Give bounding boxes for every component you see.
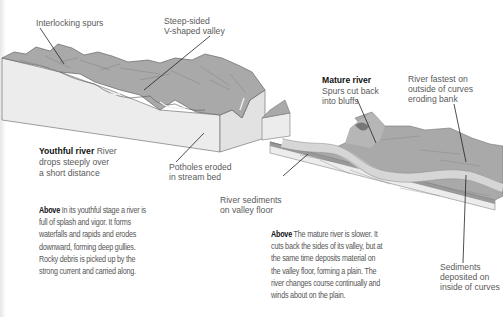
mature-caption-line: The mature river is slower. It xyxy=(294,230,378,239)
mature-caption-line: the same time deposits material on xyxy=(271,253,382,265)
label-deposited-line3: inside of curves xyxy=(440,282,500,292)
label-youthful-river: Youthful river River xyxy=(39,146,117,156)
label-deposited-line2: deposited on xyxy=(440,272,489,282)
mature-caption: Above The mature river is slower. It cut… xyxy=(271,229,382,302)
label-steep-valley-line1: Steep-sided xyxy=(164,16,210,26)
youthful-caption-line: Rocky debris is picked up by the xyxy=(39,254,146,266)
label-fastest-line1: River fastest on xyxy=(408,74,468,84)
label-interlocking-spurs: Interlocking spurs xyxy=(36,18,103,28)
label-potholes-line2: in stream bed xyxy=(169,172,221,182)
label-sediments-floor-line2: on valley floor xyxy=(220,205,273,215)
youthful-caption-line: full of splash and vigor. It forms xyxy=(39,217,146,229)
youthful-caption-line: strong current and carried along. xyxy=(39,266,146,278)
youthful-river-block xyxy=(2,44,290,152)
label-deposited-line1: Sediments xyxy=(440,262,481,272)
youthful-river-desc-3: a short distance xyxy=(39,168,100,178)
label-sediments-floor-line1: River sediments xyxy=(220,195,282,205)
youthful-caption-line: In its youthful stage a river is xyxy=(62,206,146,215)
youthful-river-title: Youthful river xyxy=(39,146,94,156)
youthful-caption-line: downward, forming deep gullies. xyxy=(39,242,146,254)
label-fastest-line3: eroding bank xyxy=(408,94,458,104)
label-steep-valley-line2: V-shaped valley xyxy=(164,26,225,36)
mature-river-block xyxy=(270,112,503,210)
mature-caption-line: winds about on the plain. xyxy=(271,290,382,302)
label-mature-river-title: Mature river xyxy=(322,75,371,85)
youthful-river-desc-1: River xyxy=(97,146,117,156)
youthful-caption-line: waterfalls and rapids and erodes xyxy=(39,229,146,241)
mature-caption-line: the valley floor, forming a plain. The xyxy=(271,266,382,278)
label-fastest-line2: outside of curves xyxy=(408,84,473,94)
mature-caption-lead: Above xyxy=(271,230,292,239)
youthful-caption: Above In its youthful stage a river is f… xyxy=(39,205,146,278)
youthful-river-desc-2: drops steeply over xyxy=(39,157,109,167)
label-potholes-line1: Potholes eroded xyxy=(169,162,232,172)
mature-river-title: Mature river xyxy=(322,75,371,85)
label-spurs-line1: Spurs cut back xyxy=(322,86,379,96)
youthful-caption-lead: Above xyxy=(39,206,60,215)
label-spurs-line2: into bluffs xyxy=(322,96,359,106)
mature-caption-line: cuts back the sides of its valley, but a… xyxy=(271,241,382,253)
mature-caption-line: river changes course continually and xyxy=(271,278,382,290)
